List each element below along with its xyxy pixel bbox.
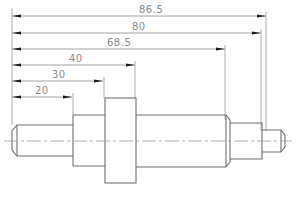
collar [105, 98, 136, 183]
arrow-left-icon [12, 32, 21, 35]
step-1 [73, 115, 105, 166]
arrow-left-icon [12, 15, 21, 18]
dimension-40: 40 [12, 53, 135, 98]
left-stub [12, 125, 73, 156]
arrow-left-icon [12, 96, 21, 99]
dimension-label-30: 30 [52, 69, 66, 80]
arrow-right-icon [257, 15, 266, 18]
shaft-outline [12, 98, 285, 183]
dimension-label-68-5: 68.5 [107, 37, 131, 48]
arrow-right-icon [63, 96, 72, 99]
arrow-left-icon [12, 48, 21, 51]
dimension-label-86-5: 86.5 [139, 4, 163, 15]
dimension-20: 20 [12, 85, 73, 115]
arrow-right-icon [94, 80, 103, 83]
arrow-right-icon [126, 64, 135, 67]
dimension-68-5: 68.5 [12, 37, 225, 120]
dimension-label-40: 40 [69, 53, 83, 64]
shaft-drawing: 86.5 80 68.5 40 30 20 [0, 0, 297, 197]
dimension-label-20: 20 [35, 85, 49, 96]
dimension-label-80: 80 [132, 21, 146, 32]
arrow-right-icon [252, 32, 261, 35]
arrow-left-icon [12, 64, 21, 67]
arrow-right-icon [216, 48, 225, 51]
dimension-30: 30 [12, 69, 104, 98]
arrow-left-icon [12, 80, 21, 83]
